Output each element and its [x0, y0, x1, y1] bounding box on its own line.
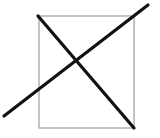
diagonal-line-ascending: [4, 5, 148, 116]
diagram-canvas: [0, 0, 160, 138]
diagonal-line-descending: [38, 16, 134, 128]
